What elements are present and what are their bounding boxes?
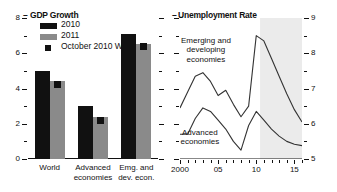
gdp-ytick-minor	[24, 141, 27, 142]
unemployment-ytick-minor	[304, 106, 307, 107]
unemployment-xtick-mark	[218, 160, 219, 164]
gdp-ytick-mark	[22, 18, 27, 19]
bar-2011	[50, 81, 65, 159]
gdp-ytick-minor-right	[159, 106, 162, 107]
gdp-ytick-label: 4	[4, 84, 20, 93]
unemployment-xtick-mark	[188, 160, 189, 163]
unemployment-xtick-label: 2000	[169, 165, 191, 174]
unemployment-ytick-mark	[304, 18, 309, 19]
unemployment-ytick-mark-left	[174, 124, 179, 125]
unemployment-ytick-label: 8	[311, 48, 327, 57]
bar-group	[78, 18, 108, 159]
unemployment-xtick-mark	[233, 160, 234, 163]
label-emerging-developing-economies: Emerging anddevelopingeconomies	[173, 36, 239, 65]
gdp-ytick-label: 2	[4, 119, 20, 128]
unemployment-xtick-mark	[279, 160, 280, 163]
unemployment-xtick-mark	[211, 160, 212, 163]
gdp-ytick-label: 8	[4, 13, 20, 22]
unemployment-ytick-label: 6	[311, 119, 327, 128]
unemployment-ytick-mark	[304, 89, 309, 90]
gdp-ytick-minor-right	[159, 71, 162, 72]
gdp-ytick-label: 6	[4, 48, 20, 57]
gdp-ytick-mark-right	[159, 53, 164, 54]
bar-2010	[78, 106, 93, 159]
unemployment-xtick-mark	[226, 160, 227, 163]
unemployment-ytick-mark	[304, 124, 309, 125]
unemployment-xtick-mark	[302, 160, 303, 163]
unemployment-ytick-minor-left	[176, 71, 179, 72]
gdp-ytick-minor	[24, 71, 27, 72]
unemployment-ytick-label: 5	[311, 154, 327, 163]
bar-2010	[121, 34, 136, 159]
unemployment-ytick-label: 9	[311, 13, 327, 22]
bar-2010	[35, 71, 50, 159]
unemployment-xtick-mark	[203, 160, 204, 163]
unemployment-ytick-minor	[304, 141, 307, 142]
gdp-ytick-minor	[24, 106, 27, 107]
unemployment-xtick-mark	[195, 160, 196, 163]
unemployment-xtick-mark	[264, 160, 265, 163]
figure-container: – GDP Growth 2010 2011 October 2010 WEO …	[0, 0, 337, 192]
unemployment-xtick-label: 05	[207, 165, 229, 174]
unemployment-ytick-mark-left	[174, 159, 179, 160]
unemployment-xtick-mark	[287, 160, 288, 163]
panel-gdp-growth: – GDP Growth 2010 2011 October 2010 WEO …	[0, 0, 170, 192]
unemployment-xtick-mark	[272, 160, 273, 163]
unemployment-ytick-minor	[304, 36, 307, 37]
weo-marker	[140, 43, 147, 50]
bar-2011	[136, 44, 151, 159]
unemployment-ytick-minor	[304, 71, 307, 72]
weo-marker	[54, 81, 61, 88]
unemployment-xtick-mark	[241, 160, 242, 163]
gdp-ytick-mark	[22, 53, 27, 54]
gdp-category-label: Emg. anddev. econ.	[107, 163, 166, 183]
gdp-plot-area	[28, 18, 158, 159]
unemployment-ytick-label: 7	[311, 84, 327, 93]
bar-group	[121, 18, 151, 159]
gdp-ytick-minor-right	[159, 141, 162, 142]
gdp-ytick-mark	[22, 89, 27, 90]
unemployment-ytick-mark	[304, 53, 309, 54]
unemployment-ytick-mark-left	[174, 89, 179, 90]
gdp-ytick-mark-right	[159, 159, 164, 160]
unemployment-xtick-mark	[294, 160, 295, 164]
bar-group	[35, 18, 65, 159]
unemployment-ytick-mark	[304, 159, 309, 160]
unemployment-xtick-mark	[180, 160, 181, 164]
gdp-ytick-mark-right	[159, 124, 164, 125]
unemployment-ytick-minor-left	[176, 106, 179, 107]
gdp-ytick-mark	[22, 159, 27, 160]
unemployment-xtick-mark	[256, 160, 257, 164]
gdp-ytick-minor-right	[159, 36, 162, 37]
label-advanced-economies: Advancedeconomies	[167, 128, 233, 147]
gdp-ytick-mark-right	[159, 89, 164, 90]
gdp-ytick-label: 0	[4, 154, 20, 163]
gdp-ytick-mark	[22, 124, 27, 125]
gdp-ytick-mark-right	[159, 18, 164, 19]
gdp-ytick-minor	[24, 36, 27, 37]
unemployment-xtick-label: 10	[245, 165, 267, 174]
unemployment-xtick-label: 15	[283, 165, 305, 174]
weo-marker	[97, 117, 104, 124]
unemployment-xtick-mark	[249, 160, 250, 163]
panel-unemployment-rate: – Unemployment Rate 567892000051015Emerg…	[170, 0, 337, 192]
unemployment-ytick-mark-left	[174, 18, 179, 19]
gdp-axis-left-line	[28, 18, 29, 159]
